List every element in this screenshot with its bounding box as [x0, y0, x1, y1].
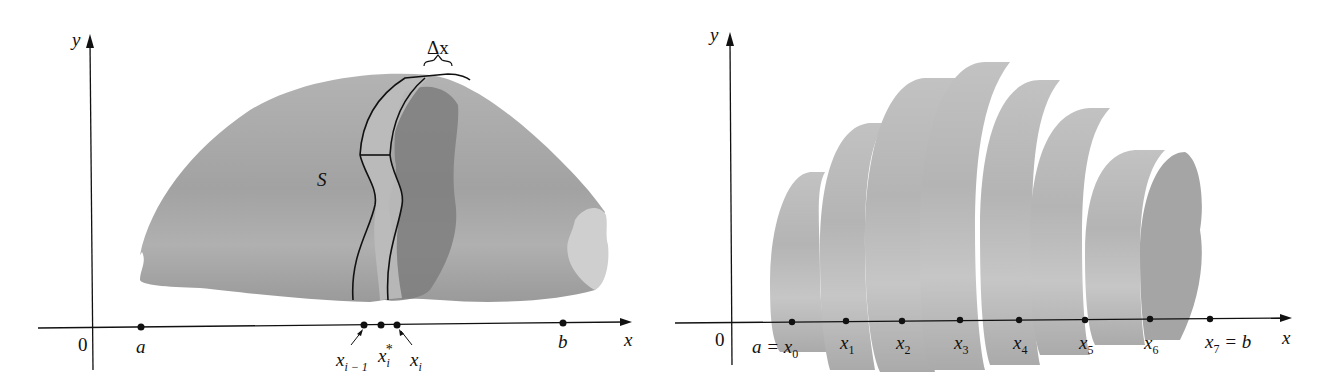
- y-axis: [90, 42, 93, 370]
- label-x4: x4: [1013, 333, 1027, 352]
- point-x3: [957, 317, 963, 323]
- cylinders: [770, 62, 1202, 372]
- label-x6: x6: [1144, 333, 1158, 352]
- x-axis: [38, 322, 625, 328]
- label-b: b: [558, 332, 568, 351]
- origin-label: 0: [78, 335, 88, 354]
- point-x-i: [394, 322, 401, 329]
- label-x0: a = x0: [752, 337, 798, 356]
- y-axis-arrow-icon: [86, 34, 94, 48]
- point-a: [138, 324, 145, 331]
- point-b: [560, 320, 567, 327]
- left-figure: y x 0 S Δx a xi − 1 xi* xi b: [0, 0, 660, 383]
- label-x5: x5: [1079, 333, 1093, 352]
- delta-x-label: Δx: [427, 38, 449, 57]
- point-x6: [1147, 316, 1153, 322]
- point-x5: [1082, 317, 1088, 323]
- label-x7: x7 = b: [1205, 332, 1251, 351]
- label-x-i-star: xi*: [378, 346, 393, 365]
- y-axis: [730, 40, 732, 365]
- y-axis-label: y: [72, 30, 80, 49]
- x-axis-label: x: [1282, 328, 1290, 347]
- y-axis-label: y: [710, 25, 718, 44]
- point-x-i-star: [378, 322, 385, 329]
- point-x0: [789, 319, 795, 325]
- point-x7: [1207, 316, 1213, 322]
- x-axis-arrow-icon: [1280, 314, 1292, 322]
- point-x-i-minus-1: [361, 322, 368, 329]
- label-a: a: [136, 337, 146, 356]
- label-x1: x1: [840, 333, 854, 352]
- solid-with-slab-drawing: [0, 0, 660, 383]
- label-x2: x2: [896, 333, 910, 352]
- cylinder-approximation-drawing: [660, 0, 1320, 383]
- x-axis: [675, 318, 1285, 323]
- solid-label: S: [317, 170, 327, 189]
- point-x4: [1016, 317, 1022, 323]
- label-x3: x3: [954, 333, 968, 352]
- label-x-i: xi: [410, 350, 422, 369]
- y-axis-arrow-icon: [726, 32, 734, 46]
- right-figure: y x 0 a = x0 x1 x2 x3 x4 x5 x6 x7 = b: [660, 0, 1320, 383]
- point-x2: [899, 318, 905, 324]
- origin-label: 0: [715, 330, 725, 349]
- label-x-i-minus-1: xi − 1: [336, 350, 368, 369]
- point-x1: [843, 318, 849, 324]
- x-axis-arrow-icon: [620, 318, 632, 326]
- x-axis-label: x: [624, 330, 632, 349]
